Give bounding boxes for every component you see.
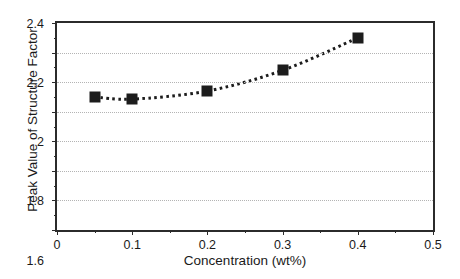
y-axis-minor-tick <box>54 156 57 157</box>
y-axis-tick: 1.4 <box>52 171 57 172</box>
y-axis-tick-label: 2.4 <box>27 17 44 31</box>
x-axis-tick <box>57 230 58 235</box>
data-point-marker <box>202 86 213 97</box>
y-axis-minor-tick <box>54 186 57 187</box>
x-axis-minor-tick <box>95 230 96 233</box>
data-point-marker <box>277 65 288 76</box>
gridline-y <box>57 200 433 201</box>
y-axis-tick: 2.4 <box>52 23 57 24</box>
plot-area: 11.21.41.61.822.22.400.10.20.30.40.5 <box>55 21 435 232</box>
data-point-marker <box>89 91 100 102</box>
y-axis-tick: 2.2 <box>52 53 57 54</box>
gridline-y <box>57 53 433 54</box>
x-axis-tick <box>132 230 133 235</box>
x-axis-minor-tick <box>170 230 171 233</box>
gridline-y <box>57 171 433 172</box>
x-axis-tick <box>433 230 434 235</box>
y-axis-tick-label: 2.2 <box>27 76 44 90</box>
x-axis-minor-tick <box>245 230 246 233</box>
x-axis-tick <box>207 230 208 235</box>
series-path <box>95 38 358 100</box>
y-axis-tick: 2 <box>52 82 57 83</box>
x-axis-tick-label: 0.2 <box>199 238 216 252</box>
y-axis-tick-label: 2 <box>37 135 44 149</box>
chart-figure: Peak Value of Structure Factor 11.21.41.… <box>0 0 460 279</box>
x-axis-minor-tick <box>395 230 396 233</box>
gridline-y <box>57 141 433 142</box>
data-point-marker <box>127 94 138 105</box>
series-line <box>57 23 433 230</box>
y-axis-tick: 1.6 <box>52 141 57 142</box>
x-axis-tick-label: 0.5 <box>424 238 441 252</box>
x-axis-title: Concentration (wt%) <box>55 253 435 268</box>
gridline-y <box>57 82 433 83</box>
x-axis-tick-label: 0.3 <box>274 238 291 252</box>
x-axis-tick-label: 0.4 <box>349 238 366 252</box>
y-axis-minor-tick <box>54 215 57 216</box>
x-axis-tick <box>358 230 359 235</box>
x-axis-minor-tick <box>320 230 321 233</box>
gridline-y <box>57 112 433 113</box>
y-axis-tick-label: 1.6 <box>27 254 44 268</box>
y-axis-tick-label: 1.8 <box>27 194 44 208</box>
y-axis-minor-tick <box>54 127 57 128</box>
data-point-marker <box>352 32 363 43</box>
y-axis-minor-tick <box>54 38 57 39</box>
x-axis-tick <box>283 230 284 235</box>
y-axis-tick: 1.2 <box>52 200 57 201</box>
x-axis-tick-label: 0.1 <box>123 238 140 252</box>
x-axis-tick-label: 0 <box>54 238 61 252</box>
y-axis-tick: 1.8 <box>52 112 57 113</box>
y-axis-minor-tick <box>54 67 57 68</box>
y-axis-minor-tick <box>54 97 57 98</box>
